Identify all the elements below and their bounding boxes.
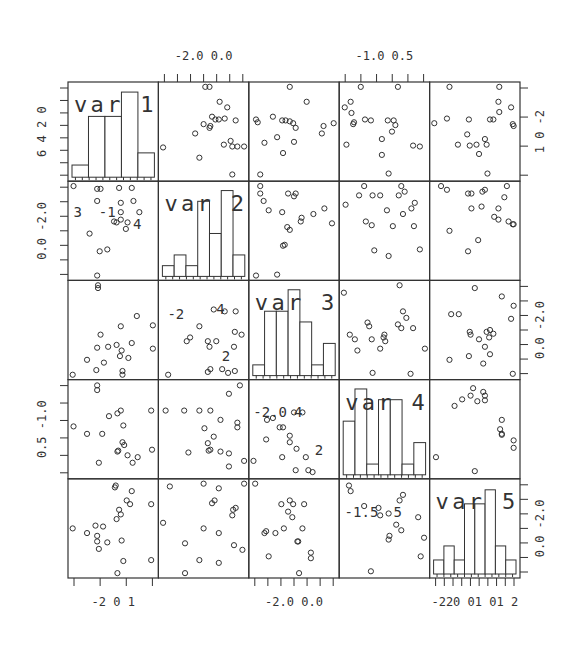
data-point [379,136,384,141]
data-point [370,193,375,198]
data-point [226,391,231,396]
data-point [167,484,172,489]
data-point [266,208,271,213]
data-point [433,455,438,460]
data-point [474,142,479,147]
histogram-bar [454,560,464,574]
data-point [285,191,290,196]
data-point [481,361,486,366]
data-point [280,243,285,248]
data-point [275,135,280,140]
data-point [502,195,507,200]
data-point [262,140,267,145]
axis-tick-labels: 0.0 -2.0 [35,202,49,260]
data-point [129,340,134,345]
data-point [402,189,407,194]
data-point [394,522,399,527]
data-point [491,117,496,122]
data-point [421,535,426,540]
data-point [117,353,122,358]
histogram-bar [72,165,88,177]
data-point [372,248,377,253]
data-point [482,344,487,349]
data-point [125,220,130,225]
data-point [70,372,75,377]
data-point [472,469,477,474]
data-point [84,357,89,362]
panel-border [158,82,248,181]
data-point [135,455,140,460]
data-point [396,193,401,198]
data-point [447,228,452,233]
data-point [386,253,391,258]
data-point [280,455,285,460]
data-point [368,118,373,123]
data-point [465,132,470,137]
data-point [409,206,414,211]
data-point [386,537,391,542]
axis-tick-labels: 0.0 -2.0 [533,301,547,359]
data-point [126,355,131,360]
data-point [384,208,389,213]
data-point [137,210,142,215]
data-point [94,367,99,372]
overlay-tick-label: 4 [216,301,224,317]
data-point [467,143,472,148]
data-point [400,492,405,497]
histogram-bar [506,560,516,574]
data-point [379,152,384,157]
data-point [84,530,89,535]
histogram-bar [465,504,475,574]
data-point [209,114,214,119]
panel-border [68,380,158,479]
data-point [280,425,285,430]
data-point [302,502,307,507]
histogram-bar [323,343,335,375]
data-point [511,438,516,443]
data-point [95,345,100,350]
data-point [449,312,454,317]
data-point [242,458,247,463]
data-point [150,323,155,328]
data-point [476,337,481,342]
data-point [404,315,409,320]
data-point [308,556,313,561]
data-point [106,414,111,419]
variable-label: var 4 [345,390,425,415]
data-point [218,449,223,454]
data-point [471,386,476,391]
data-point [216,486,221,491]
histogram-bar [174,255,186,276]
data-point [300,526,305,531]
axis-tick-labels: 6 4 2 0 [35,106,49,157]
data-point [118,200,123,205]
data-point [285,509,290,514]
data-point [264,437,269,442]
overlay-tick-label: 3 [73,204,81,220]
data-point [399,528,404,533]
data-point [233,309,238,314]
histogram-bar [88,116,104,177]
data-point [253,273,258,278]
data-point [341,290,346,295]
data-point [346,483,351,488]
data-point [410,143,415,148]
data-point [348,489,353,494]
data-point [447,84,452,89]
histogram-bar [414,443,426,475]
data-point [160,145,165,150]
data-point [100,431,105,436]
data-point [100,524,105,529]
data-point [232,368,237,373]
data-point [304,99,309,104]
data-point [390,224,395,229]
data-point [362,117,367,122]
data-point [216,530,221,535]
data-point [386,171,391,176]
data-point [499,294,504,299]
data-point [97,249,102,254]
data-point [220,367,225,372]
data-point [98,332,103,337]
histogram-bar [233,255,245,276]
data-point [287,433,292,438]
